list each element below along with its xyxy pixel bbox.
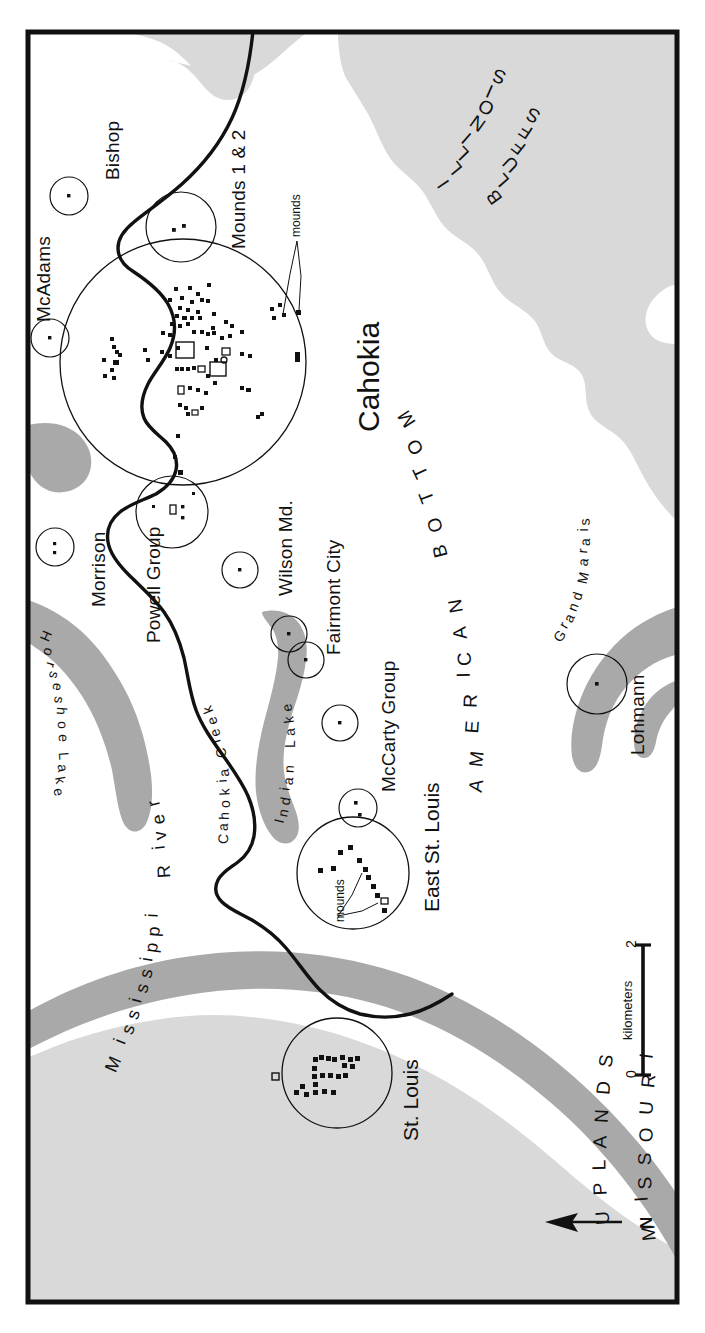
mound-dot — [287, 632, 290, 635]
mound-dot — [304, 658, 307, 661]
site-label-mcadams: McAdams — [34, 236, 53, 322]
mound-dot — [595, 682, 599, 686]
site-label-bishop: Bishop — [103, 121, 122, 180]
mound-dot — [67, 194, 70, 197]
site-label-wilson-md: Wilson Md. — [276, 500, 295, 596]
mound-dot — [53, 542, 56, 545]
site-label-cahokia: Cahokia — [354, 322, 384, 432]
mound-dot — [238, 568, 241, 571]
mound-dot — [53, 551, 56, 554]
compass-label: N — [638, 1217, 655, 1229]
mound-dot — [192, 492, 195, 495]
mound-dot — [181, 516, 184, 519]
scale-min-label: 0 — [624, 1070, 638, 1078]
annotation-label-cahokia-mounds: mounds — [290, 194, 302, 237]
mound-dot — [182, 224, 186, 228]
mound-dot — [152, 505, 155, 508]
map-canvas — [0, 0, 705, 1333]
site-label-powell-group: Powell Group — [144, 527, 163, 643]
site-label-fairmont-city: Fairmont City — [324, 539, 343, 655]
site-label-mccarty-group: McCarty Group — [379, 661, 398, 792]
mound-dot — [172, 228, 176, 232]
map-figure: I L L I N O I S B L U F F S A M E R I C … — [0, 0, 705, 1333]
mound-dot — [181, 505, 184, 508]
mound-dot — [338, 721, 341, 724]
mound-dot — [48, 336, 51, 339]
scale-max-label: 2 — [624, 940, 638, 948]
scale-units-label: kilometers — [621, 981, 634, 1040]
mound-dot — [354, 801, 358, 805]
annotation-label-east-st-louis-mounds: mounds — [334, 879, 346, 922]
mound-dot — [358, 813, 362, 817]
site-label-st-louis: St. Louis — [400, 1059, 421, 1141]
site-label-mounds-1-2: Mounds 1 & 2 — [229, 129, 248, 249]
site-label-east-st-louis: East St. Louis — [421, 782, 442, 912]
site-label-lohmann: Lohmann — [628, 674, 647, 755]
site-label-morrison: Morrison — [89, 531, 108, 607]
